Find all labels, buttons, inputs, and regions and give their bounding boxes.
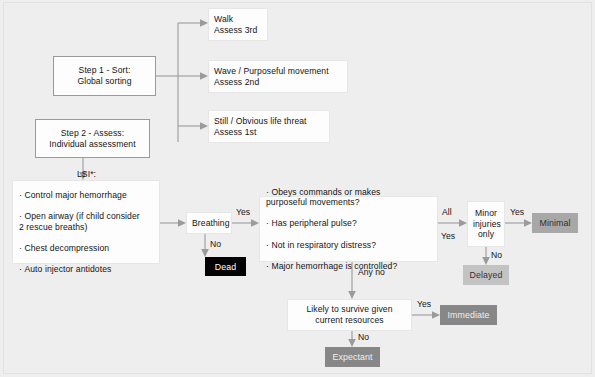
flowchart-canvas: Step 1 - Sort: Global sorting Step 2 - A…	[0, 0, 595, 377]
lsi-item-0: Control major hemorrhage	[19, 190, 154, 201]
delayed-label: Delayed	[470, 270, 503, 280]
lsi-item-2: Chest decompression	[19, 243, 154, 254]
edge-label-minor-no: No	[491, 250, 502, 260]
outcome-expectant: Expectant	[325, 347, 380, 367]
edge-label-minor-yes: Yes	[510, 207, 524, 217]
outcome-delayed: Delayed	[463, 265, 509, 285]
node-still-obvious-life-threat: Still / Obvious life threat Assess 1st	[208, 110, 330, 143]
edge-label-breathing-yes: Yes	[236, 207, 250, 217]
minor-line-3: only	[468, 229, 504, 240]
node-likely-to-survive: Likely to survive given current resource…	[287, 299, 412, 331]
node-step-1-sort: Step 1 - Sort: Global sorting	[53, 56, 156, 96]
step-2-line-2: Individual assessment	[36, 139, 149, 150]
lsi-item-1: Open airway (if child consider 2 rescue …	[19, 211, 154, 232]
minor-line-2: injuries	[468, 219, 504, 230]
expectant-label: Expectant	[333, 352, 373, 362]
outcome-dead: Dead	[205, 257, 246, 276]
node-breathing: Breathing	[186, 212, 232, 234]
edge-label-survive-yes: Yes	[417, 299, 431, 309]
dead-label: Dead	[215, 262, 236, 272]
immediate-label: Immediate	[448, 310, 490, 320]
outcome-minimal: Minimal	[532, 213, 578, 233]
assessment-item-0: Obeys commands or makes purposeful movem…	[266, 187, 432, 208]
edge-label-assessment-all: All	[442, 207, 452, 217]
edge-label-assessment-any-no: Any no	[358, 267, 385, 277]
node-lsi-interventions: LSI*: Control major hemorrhage Open airw…	[12, 180, 160, 264]
edge-label-survive-no: No	[358, 332, 369, 342]
lsi-heading: LSI*:	[19, 169, 154, 180]
wave-line-1: Wave / Purposeful movement	[209, 66, 347, 77]
minor-line-1: Minor	[468, 208, 504, 219]
step-1-line-1: Step 1 - Sort:	[54, 65, 155, 76]
assessment-item-3: Major hemorrhage is controlled?	[266, 261, 432, 272]
walk-line-2: Assess 3rd	[209, 25, 267, 36]
minimal-label: Minimal	[540, 218, 571, 228]
node-step-2-assess: Step 2 - Assess: Individual assessment	[35, 119, 150, 158]
assessment-item-2: Not in respiratory distress?	[266, 240, 432, 251]
outcome-immediate: Immediate	[440, 305, 497, 325]
still-line-2: Assess 1st	[209, 127, 329, 138]
step-2-line-1: Step 2 - Assess:	[36, 128, 149, 139]
still-line-1: Still / Obvious life threat	[209, 116, 329, 127]
walk-line-1: Walk	[209, 14, 267, 25]
step-1-line-2: Global sorting	[54, 76, 155, 87]
node-walk: Walk Assess 3rd	[208, 8, 268, 41]
edge-label-breathing-no: No	[210, 239, 221, 249]
survive-line-1: Likely to survive given	[288, 304, 411, 315]
breathing-label: Breathing	[187, 218, 231, 229]
node-assessment-questions: Obeys commands or makes purposeful movem…	[259, 196, 438, 262]
survive-line-2: current resources	[288, 315, 411, 326]
wave-line-2: Assess 2nd	[209, 77, 347, 88]
node-wave-purposeful-movement: Wave / Purposeful movement Assess 2nd	[208, 60, 348, 93]
edge-label-assessment-yes: Yes	[441, 231, 455, 241]
assessment-item-1: Has peripheral pulse?	[266, 218, 432, 229]
lsi-item-3: Auto injector antidotes	[19, 264, 154, 275]
node-minor-injuries-only: Minor injuries only	[467, 201, 505, 247]
